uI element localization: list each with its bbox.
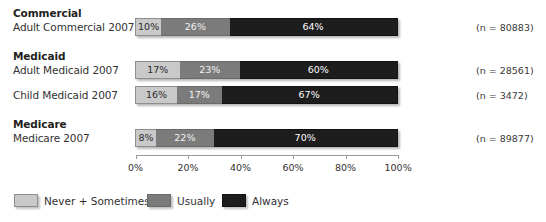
bar-segment-always: 60% xyxy=(240,61,398,79)
sample-size-label: (n = 80883) xyxy=(476,22,534,33)
group-heading-commercial: Commercial xyxy=(13,7,82,19)
axis-tick xyxy=(293,155,294,159)
axis-line xyxy=(136,155,399,156)
bar-segment-usually: 17% xyxy=(177,86,222,104)
axis-tick-label: 0% xyxy=(128,162,143,173)
axis-tick-label: 60% xyxy=(282,162,303,173)
axis-tick-label: 40% xyxy=(230,162,251,173)
sample-size-label: (n = 89877) xyxy=(476,133,534,144)
legend-swatch-always[interactable] xyxy=(222,194,246,207)
row-label-medicare: Medicare 2007 xyxy=(13,132,90,144)
row-label-adult-medicaid: Adult Medicaid 2007 xyxy=(13,64,119,76)
legend-swatch-never[interactable] xyxy=(14,194,38,207)
legend-swatch-usual[interactable] xyxy=(147,194,171,207)
row-label-child-medicaid: Child Medicaid 2007 xyxy=(13,89,118,101)
axis-tick xyxy=(346,155,347,159)
bar-segment-usually: 22% xyxy=(156,129,214,147)
axis-tick-label: 80% xyxy=(335,162,356,173)
axis-tick xyxy=(241,155,242,159)
stacked-bar-chart: Commercial Medicaid Medicare Adult Comme… xyxy=(0,0,546,222)
axis-tick-label: 20% xyxy=(177,162,198,173)
legend-label-never[interactable]: Never + Sometimes xyxy=(44,195,150,207)
bar-segment-never: 8% xyxy=(135,129,156,147)
axis-tick xyxy=(188,155,189,159)
row-label-adult-commercial: Adult Commercial 2007 xyxy=(13,21,134,33)
bar-segment-always: 70% xyxy=(214,129,398,147)
axis-tick xyxy=(398,155,399,159)
bar-segment-usually: 26% xyxy=(161,18,229,36)
legend-label-usual[interactable]: Usually xyxy=(177,195,215,207)
bar-segment-usually: 23% xyxy=(180,61,240,79)
group-heading-medicare: Medicare xyxy=(13,118,67,130)
bar-segment-never: 17% xyxy=(135,61,180,79)
sample-size-label: (n = 28561) xyxy=(476,65,534,76)
legend-label-always[interactable]: Always xyxy=(252,195,289,207)
sample-size-label: (n = 3472) xyxy=(476,90,528,101)
bar-segment-never: 16% xyxy=(135,86,177,104)
group-heading-medicaid: Medicaid xyxy=(13,50,65,62)
axis-tick-label: 100% xyxy=(385,162,412,173)
bar-segment-never: 10% xyxy=(135,18,161,36)
bar-segment-always: 64% xyxy=(230,18,398,36)
axis-tick xyxy=(136,155,137,159)
bar-segment-always: 67% xyxy=(222,86,398,104)
